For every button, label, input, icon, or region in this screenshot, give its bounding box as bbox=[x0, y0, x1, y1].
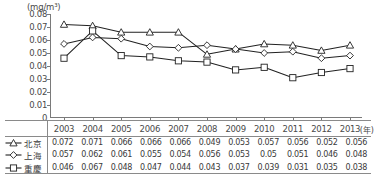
legend-item-label: 北京 bbox=[24, 137, 42, 149]
table-cell: 0.053 bbox=[228, 149, 249, 161]
table-cell: 0.056 bbox=[199, 149, 220, 161]
table-cell: 0.072 bbox=[52, 137, 73, 149]
chart-page: (mg/m³) 0.080.070.060.050.040.030.020.01… bbox=[0, 0, 375, 184]
chart-plot-area: 0.080.070.060.050.040.030.020.010 bbox=[0, 14, 375, 122]
table-cell: 0.051 bbox=[287, 149, 308, 161]
table-cell: 0.049 bbox=[199, 137, 220, 149]
table-cell: 0.035 bbox=[316, 162, 337, 174]
table-cell: 0.031 bbox=[287, 162, 308, 174]
table-cell: 0.054 bbox=[169, 149, 190, 161]
table-cell: 0.044 bbox=[169, 162, 190, 174]
y-tick-label: 0.01 bbox=[29, 100, 47, 110]
y-tick-label: 0.03 bbox=[29, 74, 47, 84]
table-cell: 0.037 bbox=[228, 162, 249, 174]
series-1 bbox=[60, 21, 353, 57]
table-cell: 0.038 bbox=[346, 162, 367, 174]
table-cell: 0.057 bbox=[52, 149, 73, 161]
table-cell: 0.046 bbox=[52, 162, 73, 174]
y-tick-label: 0.07 bbox=[29, 22, 47, 32]
table-cell: 0.055 bbox=[140, 149, 161, 161]
legend-item[interactable]: 北京 bbox=[5, 137, 47, 149]
y-tick-label: 0.05 bbox=[29, 48, 47, 58]
y-tick-label: 0.06 bbox=[29, 35, 47, 45]
table-cell: 0.066 bbox=[140, 137, 161, 149]
legend-item-label: 重慶 bbox=[24, 162, 42, 174]
triangle-marker-icon bbox=[5, 138, 22, 148]
table-row: 0.0460.0670.0480.0470.0440.0430.0370.039… bbox=[48, 162, 371, 174]
table-cell: 0.057 bbox=[258, 137, 279, 149]
y-tick-label: 0.04 bbox=[29, 61, 47, 71]
table-cell: 0.043 bbox=[199, 162, 220, 174]
y-tick-label: 0.08 bbox=[29, 9, 47, 19]
table-cell: 0.053 bbox=[228, 137, 249, 149]
table-cell: 0.071 bbox=[81, 137, 102, 149]
table-cell: 0.062 bbox=[81, 149, 102, 161]
table-value-columns: 0.0720.0710.0660.0660.0660.0490.0530.057… bbox=[48, 137, 371, 173]
table-cell: 0.039 bbox=[258, 162, 279, 174]
table-cell: 0.056 bbox=[346, 137, 367, 149]
table-rule-top bbox=[5, 120, 371, 121]
table-cell: 0.061 bbox=[111, 149, 132, 161]
table-cell: 0.046 bbox=[316, 149, 337, 161]
square-marker-icon bbox=[5, 163, 22, 173]
table-row: 0.0570.0620.0610.0550.0540.0560.0530.050… bbox=[48, 149, 371, 161]
series-lines bbox=[50, 14, 362, 118]
table-cell: 0.052 bbox=[316, 137, 337, 149]
y-tick-label: 0.02 bbox=[29, 87, 47, 97]
y-axis-labels: 0.080.070.060.050.040.030.020.010 bbox=[0, 14, 50, 118]
table-cell: 0.047 bbox=[140, 162, 161, 174]
legend-column: 北京上海重慶 bbox=[5, 137, 47, 173]
table-cell: 0.066 bbox=[111, 137, 132, 149]
legend-item[interactable]: 重慶 bbox=[5, 162, 47, 174]
table-cell: 0.048 bbox=[111, 162, 132, 174]
table-cell: 0.066 bbox=[169, 137, 190, 149]
table-row: 0.0720.0710.0660.0660.0660.0490.0530.057… bbox=[48, 137, 371, 149]
table-cell: 0.056 bbox=[287, 137, 308, 149]
legend-item-label: 上海 bbox=[24, 149, 42, 161]
table-cell: 0.048 bbox=[346, 149, 367, 161]
diamond-marker-icon bbox=[5, 150, 22, 160]
legend-item[interactable]: 上海 bbox=[5, 149, 47, 161]
data-table: 北京上海重慶 0.0720.0710.0660.0660.0660.0490.0… bbox=[0, 120, 375, 184]
plot-canvas bbox=[50, 14, 362, 118]
table-cell: 0.067 bbox=[81, 162, 102, 174]
table-cell: 0.05 bbox=[260, 149, 277, 161]
